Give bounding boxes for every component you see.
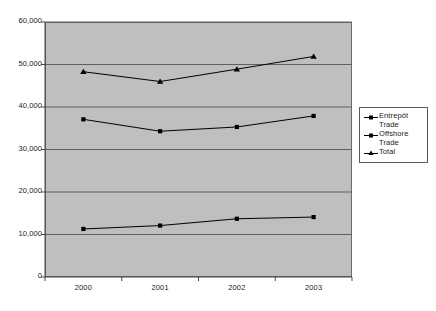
y-axis-tick-label: 50,000	[0, 60, 42, 70]
y-axis-tick-label-text: 40,000	[2, 102, 42, 110]
y-axis-tick-label-text: 0	[2, 272, 42, 280]
y-axis-tick-label-text: 20,000	[2, 187, 42, 195]
series-offshore-trade	[81, 215, 315, 231]
y-axis-tick-label-text: 30,000	[2, 145, 42, 153]
data-point-marker	[312, 114, 316, 118]
y-axis-tick-label: 40,000	[0, 102, 42, 112]
legend-item-entrepot-trade[interactable]: Entrepôt Trade	[363, 112, 427, 129]
legend-label: Offshore Trade	[379, 130, 427, 147]
series-total	[80, 53, 317, 83]
y-axis-tick-label: 20,000	[0, 187, 42, 197]
chart-legend: Entrepôt Trade Offshore Trade Total	[359, 107, 428, 163]
data-point-marker	[158, 129, 162, 133]
x-axis-tick-label: 2001	[135, 284, 185, 292]
series-entrep-t-trade	[81, 114, 315, 134]
x-axis-tick-marks	[45, 277, 352, 281]
x-axis-tick-label: 2000	[58, 284, 108, 292]
data-series-layer	[80, 53, 317, 231]
data-point-marker	[235, 217, 239, 221]
y-axis-tick-label-text: 10,000	[2, 230, 42, 238]
legend-item-total[interactable]: Total	[363, 148, 427, 159]
data-point-marker	[158, 223, 162, 227]
legend-item-offshore-trade[interactable]: Offshore Trade	[363, 130, 427, 147]
x-axis-tick-label: 2002	[212, 284, 262, 292]
gridlines	[45, 22, 352, 277]
x-axis-tick-label: 2003	[289, 284, 339, 292]
legend-square-marker-icon	[363, 130, 379, 141]
data-point-marker	[81, 117, 85, 121]
legend-label: Total	[379, 148, 395, 157]
legend-triangle-marker-icon	[363, 148, 379, 159]
y-axis-tick-label-text: 60,000	[2, 17, 42, 25]
legend-square-marker-icon	[363, 112, 379, 123]
y-axis-tick-label: 60,000	[0, 17, 42, 27]
series-line	[83, 56, 313, 81]
series-line	[83, 116, 313, 131]
y-axis-tick-label: 30,000	[0, 145, 42, 155]
data-point-marker	[312, 215, 316, 219]
y-axis-tick-label: 0	[0, 272, 42, 282]
y-axis-tick-label: 10,000	[0, 230, 42, 240]
data-point-marker	[310, 53, 316, 58]
series-line	[83, 217, 313, 229]
data-point-marker	[81, 227, 85, 231]
data-point-marker	[80, 69, 86, 74]
data-point-marker	[235, 125, 239, 129]
line-chart: 010,00020,00030,00040,00050,00060,000 20…	[0, 0, 436, 311]
y-axis-tick-label-text: 50,000	[2, 60, 42, 68]
legend-label: Entrepôt Trade	[379, 112, 427, 129]
